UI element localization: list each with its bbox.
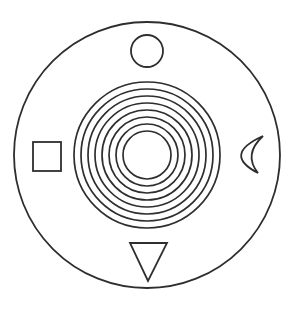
circle-icon [131, 35, 163, 67]
concentric-rings [74, 82, 220, 228]
outer-circle [14, 22, 280, 288]
concentric-ring [109, 117, 185, 193]
triangle-down-icon [130, 243, 167, 281]
crescent-moon-icon [241, 136, 263, 173]
concentric-ring [116, 124, 178, 186]
concentric-ring [88, 96, 206, 214]
symbol-diagram [0, 0, 297, 312]
concentric-ring [81, 89, 213, 221]
square-icon [33, 142, 61, 171]
concentric-ring [74, 82, 220, 228]
concentric-ring [123, 131, 171, 179]
concentric-ring [95, 103, 199, 207]
